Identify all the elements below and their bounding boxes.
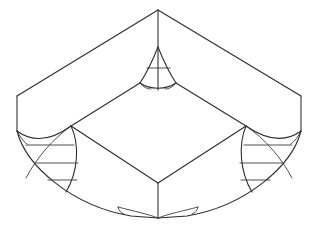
figure-container: Isometric rounded-corner box with blende… [0, 0, 319, 238]
geometric-line-diagram: Isometric rounded-corner box with blende… [0, 0, 319, 238]
